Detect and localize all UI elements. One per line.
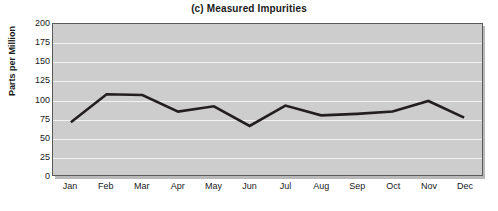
y-tick-label: 75: [18, 114, 50, 124]
x-tick-label: Jul: [265, 181, 305, 191]
x-tick-label: Nov: [409, 181, 449, 191]
x-tick-label: May: [194, 181, 234, 191]
y-tick-label: 0: [18, 171, 50, 181]
y-tick-label: 25: [18, 152, 50, 162]
x-tick-label: Oct: [373, 181, 413, 191]
x-tick-label: Jan: [50, 181, 90, 191]
x-tick-label: Feb: [86, 181, 126, 191]
y-tick-label: 125: [18, 75, 50, 85]
x-tick-label: Mar: [122, 181, 162, 191]
y-axis-tick-labels: 0255075100125150175200: [18, 23, 50, 176]
x-axis-tick-labels: JanFebMarAprMayJunJulAugSepOctNovDec: [52, 181, 483, 197]
y-axis-label: Parts per Million: [7, 11, 17, 111]
y-tick-label: 100: [18, 95, 50, 105]
x-tick-label: Apr: [158, 181, 198, 191]
plot-area: [52, 23, 483, 176]
y-tick-label: 200: [18, 18, 50, 28]
x-tick-label: Sep: [337, 181, 377, 191]
y-tick-label: 175: [18, 37, 50, 47]
x-tick-label: Dec: [445, 181, 485, 191]
data-line-measured-impurities: [71, 94, 464, 126]
x-tick-label: Aug: [301, 181, 341, 191]
y-tick-label: 50: [18, 133, 50, 143]
y-tick-label: 150: [18, 56, 50, 66]
chart-figure: (c) Measured Impurities Parts per Millio…: [0, 0, 498, 211]
chart-title: (c) Measured Impurities: [0, 3, 498, 14]
data-line-svg: [53, 24, 482, 175]
x-tick-label: Jun: [230, 181, 270, 191]
